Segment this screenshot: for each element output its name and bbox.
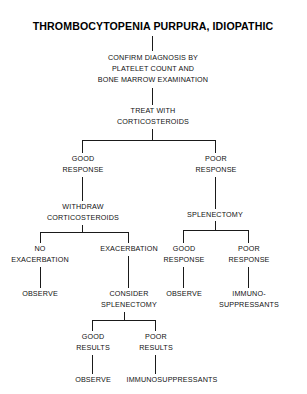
connector-split1-left-drop xyxy=(82,140,83,153)
connector-split3-bar xyxy=(183,230,249,231)
node-confirm-diagnosis-line1: CONFIRM DIAGNOSIS BY xyxy=(98,52,208,63)
connector-exacerbation-to-consider xyxy=(128,256,129,288)
node-poor-response-1-line2: RESPONSE xyxy=(195,164,236,175)
node-poor-results-line1: POOR xyxy=(139,331,173,342)
node-good-response-2-line1: GOOD xyxy=(163,243,204,254)
node-good-results-line1: GOOD xyxy=(76,331,110,342)
node-withdraw-corticosteroids: WITHDRAW CORTICOSTEROIDS xyxy=(47,201,119,223)
connector-noexacerbation-to-observe xyxy=(40,267,41,288)
node-immunosuppressants-splenectomy-poor: IMMUNO- SUPPRESSANTS xyxy=(219,288,279,310)
node-poor-response-corticosteroids: POOR RESPONSE xyxy=(195,153,236,175)
connector-split1-right-drop xyxy=(215,140,216,153)
connector-split1-bar xyxy=(82,140,216,141)
node-immunosuppressants-poor-results: IMMUNOSUPPRESSANTS xyxy=(127,374,218,385)
node-good-response-splenectomy: GOOD RESPONSE xyxy=(163,243,204,265)
connector-poorresponse2-to-immuno xyxy=(248,267,249,288)
node-poor-response-1-line1: POOR xyxy=(195,153,236,164)
node-poor-response-2-line2: RESPONSE xyxy=(228,254,269,265)
connector-title-to-confirm xyxy=(152,36,153,51)
connector-split4-left-drop xyxy=(92,320,93,331)
node-confirm-diagnosis: CONFIRM DIAGNOSIS BY PLATELET COUNT AND … xyxy=(98,52,208,85)
node-consider-splenectomy: CONSIDER SPLENECTOMY xyxy=(101,288,157,310)
node-observe-good-results: OBSERVE xyxy=(75,374,111,385)
node-consider-line2: SPLENECTOMY xyxy=(101,299,157,310)
connector-poorresponse-to-splenectomy xyxy=(215,177,216,209)
connector-goodresponse2-to-observe xyxy=(183,267,184,288)
connector-split4-bar xyxy=(92,320,156,321)
node-observe-right-label: OBSERVE xyxy=(166,288,202,299)
node-withdraw-line1: WITHDRAW xyxy=(47,201,119,212)
connector-goodresponse-to-withdraw xyxy=(82,177,83,201)
connector-split2-left-drop xyxy=(40,232,41,243)
node-confirm-diagnosis-line3: BONE MARROW EXAMINATION xyxy=(98,74,208,85)
node-splenectomy-label: SPLENECTOMY xyxy=(187,209,243,220)
connector-split2-right-drop xyxy=(128,232,129,243)
node-immuno-right-line1: IMMUNO- xyxy=(219,288,279,299)
connector-split2-bar xyxy=(40,232,129,233)
connector-confirm-to-treat xyxy=(152,88,153,105)
node-poor-results: POOR RESULTS xyxy=(139,331,173,353)
node-observe-left-label: OBSERVE xyxy=(22,288,58,299)
node-good-results: GOOD RESULTS xyxy=(76,331,110,353)
connector-split3-right-drop xyxy=(248,230,249,243)
node-no-exacerbation-line2: EXACERBATION xyxy=(11,254,69,265)
node-poor-response-splenectomy: POOR RESPONSE xyxy=(228,243,269,265)
node-confirm-diagnosis-line2: PLATELET COUNT AND xyxy=(98,63,208,74)
connector-poorresults-to-immunosuppressants xyxy=(155,355,156,374)
connector-splenectomy-to-split3 xyxy=(215,221,216,230)
node-immuno-right-line2: SUPPRESSANTS xyxy=(219,299,279,310)
node-exacerbation: EXACERBATION xyxy=(100,243,158,254)
node-splenectomy: SPLENECTOMY xyxy=(187,209,243,220)
node-treat-with-corticosteroids: TREAT WITH CORTICOSTEROIDS xyxy=(117,105,189,127)
node-consider-line1: CONSIDER xyxy=(101,288,157,299)
node-good-response-1-line2: RESPONSE xyxy=(62,164,103,175)
node-observe-bottom-label: OBSERVE xyxy=(75,374,111,385)
node-good-response-1-line1: GOOD xyxy=(62,153,103,164)
node-treat-line2: CORTICOSTEROIDS xyxy=(117,116,189,127)
node-observe-no-exacerbation: OBSERVE xyxy=(22,288,58,299)
node-good-response-corticosteroids: GOOD RESPONSE xyxy=(62,153,103,175)
node-good-response-2-line2: RESPONSE xyxy=(163,254,204,265)
node-observe-splenectomy-good: OBSERVE xyxy=(166,288,202,299)
connector-split4-right-drop xyxy=(155,320,156,331)
flowchart-canvas: THROMBOCYTOPENIA PURPURA, IDIOPATHIC CON… xyxy=(0,0,307,394)
node-withdraw-line2: CORTICOSTEROIDS xyxy=(47,212,119,223)
node-exacerbation-label: EXACERBATION xyxy=(100,243,158,254)
node-poor-results-line2: RESULTS xyxy=(139,342,173,353)
connector-goodresults-to-observe xyxy=(92,355,93,374)
node-no-exacerbation-line1: NO xyxy=(11,243,69,254)
node-no-exacerbation: NO EXACERBATION xyxy=(11,243,69,265)
node-treat-line1: TREAT WITH xyxy=(117,105,189,116)
node-immunosuppressants-bottom-label: IMMUNOSUPPRESSANTS xyxy=(127,374,218,385)
page-title: THROMBOCYTOPENIA PURPURA, IDIOPATHIC xyxy=(33,20,273,32)
connector-split3-left-drop xyxy=(183,230,184,243)
node-good-results-line2: RESULTS xyxy=(76,342,110,353)
node-poor-response-2-line1: POOR xyxy=(228,243,269,254)
